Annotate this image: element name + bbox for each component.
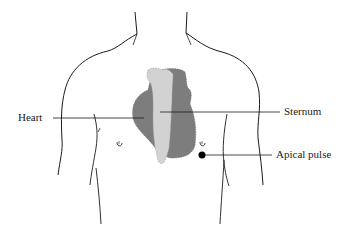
chest-diagram <box>0 0 347 243</box>
neck-right <box>186 12 187 33</box>
apical-pulse-label: Apical pulse <box>276 149 331 160</box>
heart-label: Heart <box>18 112 42 123</box>
sternum-label: Sternum <box>284 106 321 117</box>
neck-left <box>135 12 137 34</box>
nipple-right <box>200 142 205 146</box>
shoulder-left <box>58 34 137 175</box>
torso-left <box>90 114 97 185</box>
apical-pulse-marker <box>199 152 206 159</box>
shoulder-right <box>186 33 263 185</box>
torso-right <box>223 114 229 186</box>
nipple-left <box>117 142 122 146</box>
